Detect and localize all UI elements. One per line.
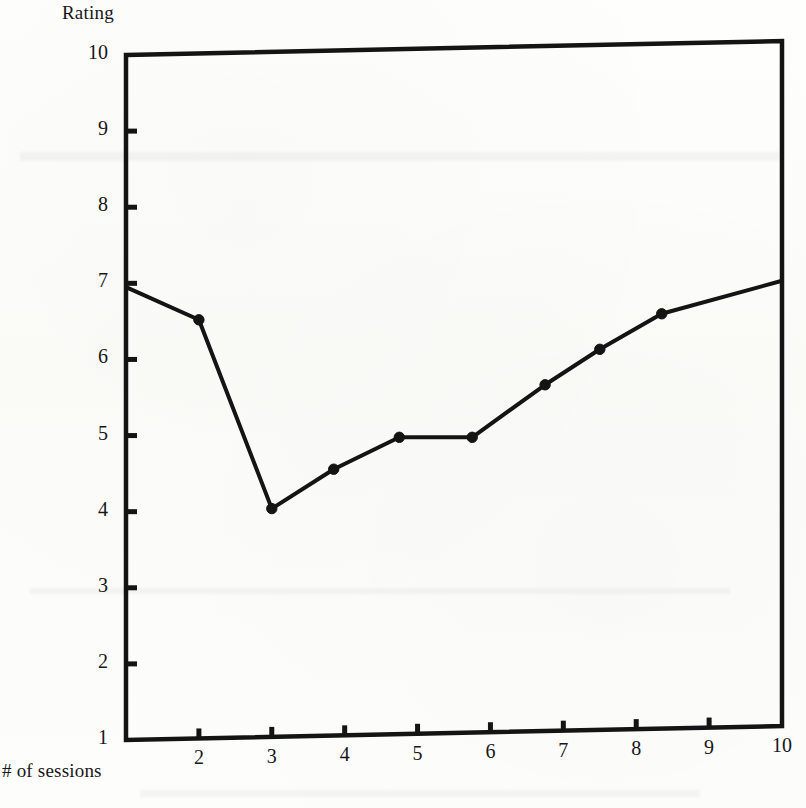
data-point-marker	[595, 344, 605, 354]
data-point-marker	[540, 380, 550, 390]
line-chart: Rating # of sessions 1234567891023456789…	[0, 0, 806, 808]
data-series-line	[126, 281, 782, 509]
data-point-marker	[467, 432, 477, 442]
tick-marks	[126, 131, 709, 738]
data-point-marker	[394, 432, 404, 442]
data-point-markers	[194, 309, 667, 514]
data-point-marker	[657, 309, 667, 319]
data-point-marker	[267, 503, 277, 513]
data-point-marker	[329, 464, 339, 474]
data-point-marker	[194, 315, 204, 325]
chart-canvas	[0, 0, 806, 808]
